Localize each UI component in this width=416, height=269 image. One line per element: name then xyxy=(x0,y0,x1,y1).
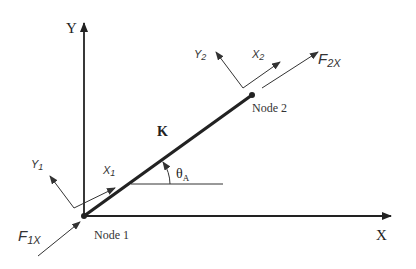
force-1x-label: F1X xyxy=(18,227,41,246)
force-1x-arrow xyxy=(38,222,80,256)
node-1-label: Node 1 xyxy=(94,228,129,242)
angle-label: θA xyxy=(176,166,190,183)
force-2x-arrow xyxy=(262,52,318,88)
node-1-dot xyxy=(81,213,87,219)
local-x2-label: X2 xyxy=(251,48,264,62)
truss-element-diagram: Y X θA K Node 1 Node 2 X1 Y1 X2 Y2 F2X F… xyxy=(0,0,416,269)
local-y2-arrow xyxy=(216,52,243,88)
global-x-label: X xyxy=(376,227,387,243)
node-2-label: Node 2 xyxy=(252,101,287,115)
local-y1-label: Y1 xyxy=(31,158,43,172)
global-y-label: Y xyxy=(66,20,77,36)
local-y2-label: Y2 xyxy=(194,48,206,62)
local-x1-label: X1 xyxy=(102,164,115,178)
angle-arc xyxy=(163,162,170,184)
node-2-dot xyxy=(249,92,255,98)
local-x2-arrow xyxy=(243,62,280,88)
local-y1-arrow xyxy=(50,176,74,208)
force-2x-label: F2X xyxy=(318,50,341,69)
stiffness-label: K xyxy=(157,124,168,139)
element-bar xyxy=(84,95,252,216)
